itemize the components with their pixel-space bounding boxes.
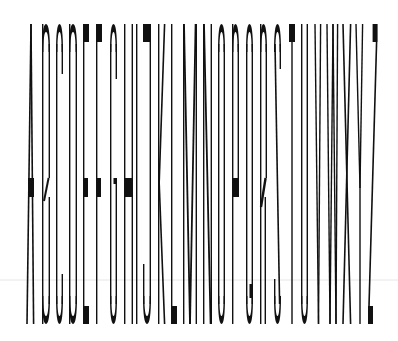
letter-x <box>343 24 351 324</box>
letter-v <box>315 24 321 324</box>
condensed-alphabet-artwork <box>0 0 398 341</box>
letter-g <box>110 24 117 324</box>
letter-s <box>274 24 281 324</box>
letter-u <box>301 24 308 324</box>
letter-y <box>356 24 363 324</box>
letter-p <box>232 24 239 324</box>
letter-o <box>218 24 225 324</box>
letter-e <box>83 24 89 324</box>
letter-w <box>327 24 338 324</box>
letter-h <box>124 24 133 324</box>
letter-b <box>42 24 50 324</box>
letter-a <box>27 24 34 324</box>
letter-j <box>143 24 151 324</box>
letter-q <box>246 24 253 324</box>
letter-n <box>203 24 212 324</box>
letter-f <box>96 24 102 324</box>
letter-m <box>183 24 197 324</box>
letter-r <box>260 24 267 324</box>
letter-c <box>56 24 63 324</box>
letter-t <box>289 24 295 324</box>
letter-d <box>69 24 77 324</box>
letter-k <box>158 24 165 324</box>
letter-i <box>136 24 137 324</box>
letter-l <box>171 24 177 324</box>
letter-z <box>368 24 378 324</box>
letter-glyphs <box>27 24 378 324</box>
